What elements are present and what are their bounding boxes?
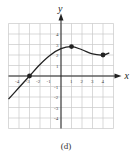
y-tick-label: -1 <box>54 85 59 90</box>
function-graph: xy-4-3-2-11234-4-3-2-11234 <box>0 0 132 140</box>
x-axis-arrow-icon <box>115 74 122 79</box>
y-axis-label: y <box>57 3 63 14</box>
x-tick-label: -2 <box>36 79 41 84</box>
y-tick-label: 4 <box>56 32 59 37</box>
x-tick-label: 3 <box>91 79 94 84</box>
y-tick-label: -3 <box>54 106 59 111</box>
y-tick-label: -2 <box>54 95 59 100</box>
x-axis-label: x <box>124 70 130 81</box>
y-tick-label: 1 <box>56 64 59 69</box>
function-curve <box>9 47 110 100</box>
x-tick-label: 2 <box>81 79 84 84</box>
y-tick-label: 2 <box>56 53 59 58</box>
x-tick-label: 1 <box>70 79 73 84</box>
data-point-marker <box>69 44 74 49</box>
data-point-marker <box>27 74 32 79</box>
x-tick-label: 4 <box>102 79 105 84</box>
x-tick-label: -4 <box>15 79 20 84</box>
y-axis-arrow-icon <box>59 14 64 21</box>
y-tick-label: 3 <box>56 43 59 48</box>
y-tick-label: -4 <box>54 116 59 121</box>
x-tick-label: -1 <box>47 79 52 84</box>
figure-caption: (d) <box>0 141 132 151</box>
data-point-marker <box>101 53 106 58</box>
